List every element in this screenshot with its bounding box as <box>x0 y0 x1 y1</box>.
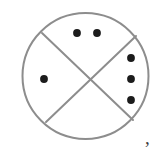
dot-marker <box>127 96 135 104</box>
dot-marker <box>73 29 81 37</box>
dot-marker <box>40 75 48 83</box>
dot-marker <box>127 75 135 83</box>
chord-group <box>42 33 136 122</box>
dot-marker <box>127 54 135 62</box>
dot-group-right <box>127 54 135 104</box>
figure-canvas: , <box>0 0 165 151</box>
dot-marker <box>93 29 101 37</box>
dot-group-top <box>73 29 101 37</box>
dot-group-left <box>40 75 48 83</box>
diagonal-chord-nw-se <box>42 33 133 120</box>
trailing-comma: , <box>145 128 150 147</box>
circle-diagram-svg <box>0 0 165 151</box>
